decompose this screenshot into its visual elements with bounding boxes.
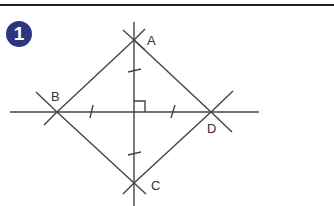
side-bc [57, 112, 134, 183]
arc-mark-a2 [134, 29, 145, 40]
label-b: B [51, 89, 60, 104]
side-dc [134, 112, 211, 183]
side-ab [57, 40, 134, 112]
label-a: A [147, 33, 156, 48]
arc-mark-b2 [44, 112, 57, 125]
label-c: C [151, 178, 160, 193]
right-angle-marker [134, 101, 145, 112]
arc-mark-d [211, 91, 233, 112]
label-d: D [207, 121, 216, 136]
arc-mark-c [123, 183, 134, 194]
square-construction-diagram: A B C D [0, 0, 334, 206]
arc-mark-c2 [134, 183, 146, 194]
